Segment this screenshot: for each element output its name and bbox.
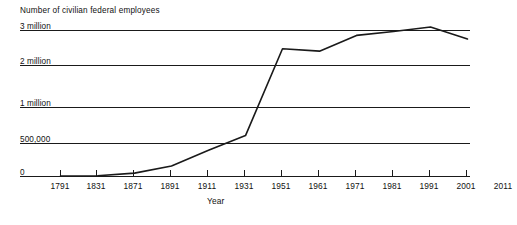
gridlines <box>20 31 470 144</box>
x-axis-ticks <box>61 170 467 176</box>
data-line-civilian-federal-employees <box>61 27 468 176</box>
x-tick-label-2011: 2011 <box>486 181 517 191</box>
